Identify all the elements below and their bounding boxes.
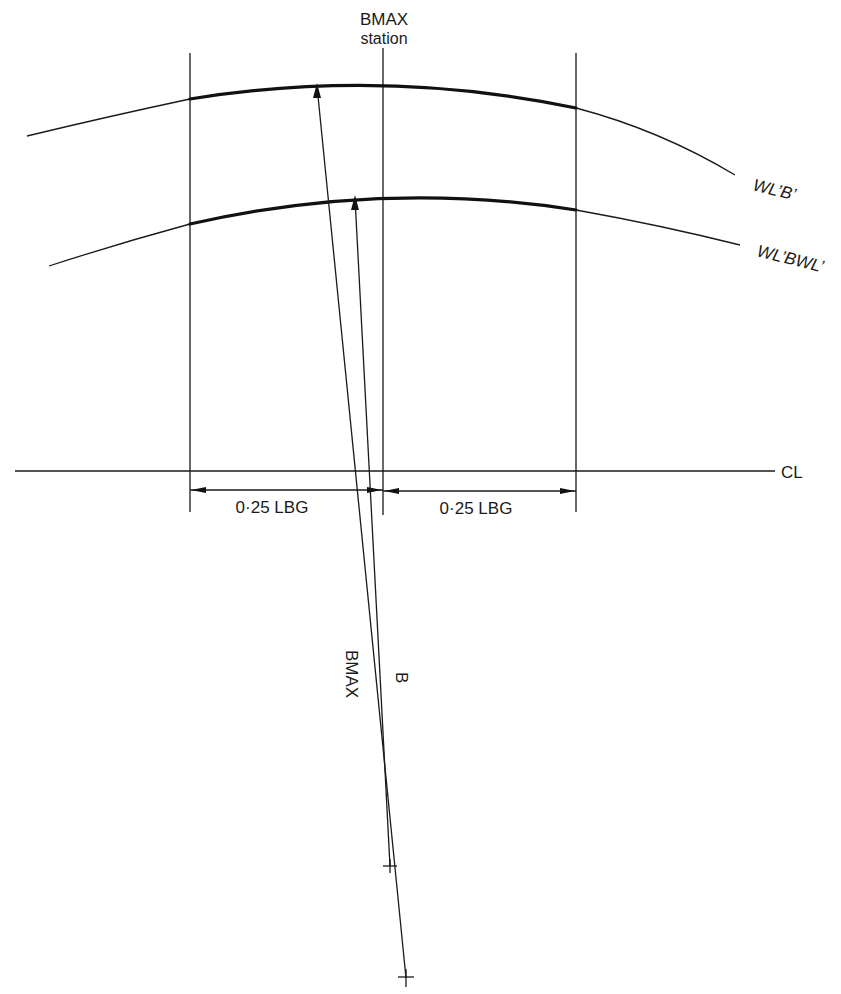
dim-arrow-left-end <box>367 487 382 493</box>
bmax-radius-line <box>317 86 406 978</box>
b-radius-line <box>355 198 390 866</box>
waterline-bwl-curve-left <box>49 224 190 266</box>
dimension-left-label: 0·25 LBG <box>236 498 309 517</box>
dim-arrow-right-end <box>560 488 575 494</box>
waterline-b-curve-left <box>27 99 190 136</box>
dimension-right-label: 0·25 LBG <box>440 499 513 518</box>
waterline-b-curve-right <box>576 108 735 175</box>
dim-arrow-right-start <box>384 488 399 494</box>
b-radius-arrowhead <box>351 195 359 210</box>
waterline-bwl-curve-right <box>576 210 740 245</box>
station-sub-label: station <box>360 30 407 47</box>
station-title-label: BMAX <box>360 10 408 29</box>
bmax-radius-label: BMAX <box>342 650 361 698</box>
dim-arrow-left-start <box>191 487 206 493</box>
waterline-b-label: WL’B’ <box>751 175 798 204</box>
b-radius-label: B <box>392 672 411 683</box>
hull-waterline-diagram: BMAX station WL’B’ WL’BWL’ CL 0·25 LBG 0… <box>0 0 841 994</box>
waterline-bwl-label: WL’BWL’ <box>755 241 826 276</box>
centerline-label: CL <box>781 463 803 482</box>
